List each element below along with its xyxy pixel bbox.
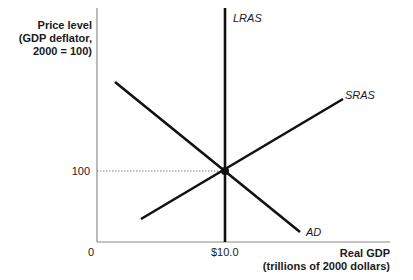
y-axis-label-line1: Price level bbox=[0, 19, 92, 32]
sras-curve bbox=[141, 99, 343, 219]
ad-label: AD bbox=[306, 226, 321, 239]
x-axis-label-line2: (trillions of 2000 dollars) bbox=[230, 260, 390, 273]
y-tick-100: 100 bbox=[60, 165, 90, 178]
x-axis-label: Real GDP (trillions of 2000 dollars) bbox=[230, 247, 390, 273]
origin-label: 0 bbox=[88, 246, 94, 259]
x-axis-label-line1: Real GDP bbox=[230, 247, 390, 260]
sras-label: SRAS bbox=[345, 89, 375, 102]
y-axis-label-line3: 2000 = 100) bbox=[0, 45, 92, 58]
y-axis-label-line2: (GDP deflator, bbox=[0, 32, 92, 45]
lras-label: LRAS bbox=[233, 12, 262, 25]
ad-curve bbox=[115, 82, 300, 232]
y-axis-label: Price level (GDP deflator, 2000 = 100) bbox=[0, 19, 92, 58]
equilibrium-point bbox=[221, 167, 229, 175]
